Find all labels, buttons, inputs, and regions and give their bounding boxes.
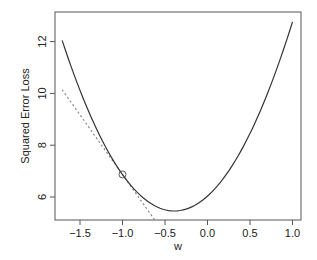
x-tick-label: −0.5	[154, 227, 176, 239]
x-tick-label: −1.5	[69, 227, 91, 239]
y-tick-label: 6	[36, 194, 48, 200]
tangent-line	[62, 90, 155, 220]
y-tick-label: 8	[36, 142, 48, 148]
y-axis: 681012	[36, 35, 55, 200]
x-tick-label: 0.0	[200, 227, 215, 239]
plot-frame	[55, 12, 301, 220]
y-axis-title: Squared Error Loss	[19, 68, 31, 164]
loss-chart: −1.5−1.0−0.50.00.51.0 681012 w Squared E…	[0, 0, 317, 260]
loss-curve	[62, 22, 292, 211]
x-tick-label: −1.0	[112, 227, 134, 239]
x-axis-title: w	[173, 240, 182, 252]
y-tick-label: 10	[36, 87, 48, 99]
x-axis: −1.5−1.0−0.50.00.51.0	[69, 220, 300, 239]
x-tick-label: 0.5	[242, 227, 257, 239]
y-tick-label: 12	[36, 35, 48, 47]
x-tick-label: 1.0	[285, 227, 300, 239]
